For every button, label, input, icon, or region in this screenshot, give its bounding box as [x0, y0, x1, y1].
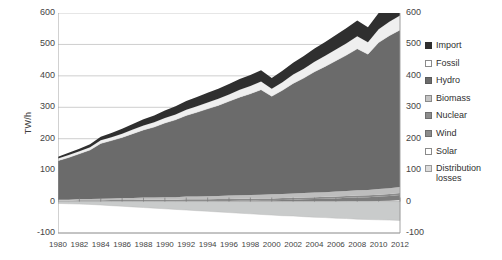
y-tick-label-right-500: 500 — [406, 39, 421, 48]
y-tick-label-left-200: 200 — [40, 134, 55, 143]
x-tick-label-1992: 1992 — [177, 241, 195, 249]
x-tick-label-1986: 1986 — [113, 241, 131, 249]
y-tick-label-left-500: 500 — [40, 39, 55, 48]
x-tick-label-2006: 2006 — [327, 241, 345, 249]
x-tick-label-2012: 2012 — [391, 241, 409, 249]
y-tick-label-left-600: 600 — [40, 8, 55, 17]
legend-swatch-solar-icon — [425, 148, 432, 155]
y-tick-label-left--100: -100 — [37, 228, 55, 237]
legend-label-wind: Wind — [436, 128, 457, 138]
legend-label-biomass: Biomass — [436, 93, 471, 103]
y-axis-title: TW/h — [23, 103, 33, 143]
legend-swatch-nuclear-icon — [425, 112, 432, 119]
y-tick-label-left-0: 0 — [50, 197, 55, 206]
y-tick-label-left-400: 400 — [40, 71, 55, 80]
y-tick-label-right-0: 0 — [406, 197, 411, 206]
x-tick-label-1980: 1980 — [49, 241, 67, 249]
legend-swatch-hydro-icon — [425, 77, 432, 84]
legend-item-solar[interactable]: Solar — [425, 146, 502, 156]
y-tick-label-right-200: 200 — [406, 134, 421, 143]
chart-legend: ImportFossilHydroBiomassNuclearWindSolar… — [425, 40, 502, 191]
y-tick-label-right-400: 400 — [406, 71, 421, 80]
x-tick-label-1998: 1998 — [241, 241, 259, 249]
legend-item-fossil[interactable]: Fossil — [425, 58, 502, 68]
x-tick-label-2008: 2008 — [348, 241, 366, 249]
legend-item-nuclear[interactable]: Nuclear — [425, 110, 502, 120]
legend-swatch-fossil-icon — [425, 60, 432, 67]
legend-item-hydro[interactable]: Hydro — [425, 75, 502, 85]
x-tick-label-2010: 2010 — [370, 241, 388, 249]
y-tick-label-left-100: 100 — [40, 165, 55, 174]
area-hydro — [58, 30, 400, 200]
x-tick-label-1984: 1984 — [92, 241, 110, 249]
y-tick-label-right--100: -100 — [406, 228, 424, 237]
y-tick-label-right-600: 600 — [406, 8, 421, 17]
legend-item-biomass[interactable]: Biomass — [425, 93, 502, 103]
area-distribution-losses — [58, 202, 400, 221]
y-tick-label-left-300: 300 — [40, 102, 55, 111]
legend-swatch-distribution-losses-icon — [425, 165, 432, 172]
legend-label-nuclear: Nuclear — [436, 110, 467, 120]
x-tick-label-2000: 2000 — [263, 241, 281, 249]
y-tick-label-right-100: 100 — [406, 165, 421, 174]
legend-item-wind[interactable]: Wind — [425, 128, 502, 138]
legend-swatch-import-icon — [425, 42, 432, 49]
legend-label-distribution-losses: Distribution losses — [436, 163, 502, 183]
x-tick-label-1994: 1994 — [199, 241, 217, 249]
x-tick-label-2004: 2004 — [306, 241, 324, 249]
legend-label-hydro: Hydro — [436, 75, 460, 85]
x-tick-label-1996: 1996 — [220, 241, 238, 249]
x-tick-label-1988: 1988 — [135, 241, 153, 249]
stacked-area-chart: TW/h 6005004003002001000-100 60050040030… — [0, 0, 502, 260]
legend-item-import[interactable]: Import — [425, 40, 502, 50]
x-tick-label-1982: 1982 — [70, 241, 88, 249]
legend-item-distribution-losses[interactable]: Distribution losses — [425, 163, 502, 183]
x-tick-label-1990: 1990 — [156, 241, 174, 249]
legend-label-fossil: Fossil — [436, 58, 460, 68]
legend-swatch-wind-icon — [425, 130, 432, 137]
plot-area — [58, 13, 400, 233]
legend-swatch-biomass-icon — [425, 95, 432, 102]
legend-label-solar: Solar — [436, 146, 457, 156]
x-tick-label-2002: 2002 — [284, 241, 302, 249]
legend-label-import: Import — [436, 40, 462, 50]
y-tick-label-right-300: 300 — [406, 102, 421, 111]
